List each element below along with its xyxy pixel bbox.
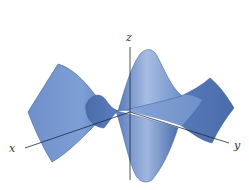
surface-plot: z x y	[0, 0, 249, 190]
x-axis-label: x	[9, 142, 16, 155]
z-axis-label: z	[125, 31, 132, 44]
y-axis-label: y	[233, 139, 241, 152]
